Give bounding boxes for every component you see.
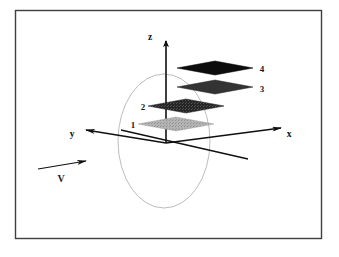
diagram-svg: z y x V 1 2 3 4 xyxy=(0,0,339,257)
figure-canvas: z y x V 1 2 3 4 xyxy=(0,0,339,257)
y-axis-label: y xyxy=(70,129,75,139)
plane-2-label: 2 xyxy=(141,102,146,112)
velocity-label: V xyxy=(57,173,65,184)
x-axis-label: x xyxy=(287,129,292,139)
plane-4-label: 4 xyxy=(260,64,265,74)
plane-3-label: 3 xyxy=(260,84,265,94)
plane-1-label: 1 xyxy=(131,120,136,130)
